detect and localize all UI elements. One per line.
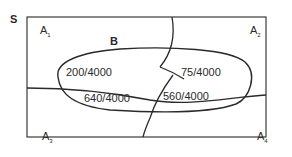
- sample-space-rect: [27, 17, 266, 137]
- upper-vertical-divider: [160, 17, 173, 67]
- partition-a2-label: A2: [250, 24, 261, 38]
- a3-b-value: 640/4000: [84, 92, 130, 104]
- venn-diagram: S B A1 A2 A3 A4 200/4000 75/4000 640/400…: [0, 0, 292, 157]
- a2-b-value: 75/4000: [181, 66, 221, 78]
- a4-b-value: 560/4000: [163, 90, 209, 102]
- lower-vertical-divider: [143, 75, 173, 137]
- event-b-label: B: [110, 35, 118, 47]
- partition-a4-label: A4: [257, 130, 268, 144]
- sample-space-label: S: [10, 13, 17, 25]
- partition-a1-label: A1: [40, 24, 51, 38]
- a1-b-value: 200/4000: [66, 66, 112, 78]
